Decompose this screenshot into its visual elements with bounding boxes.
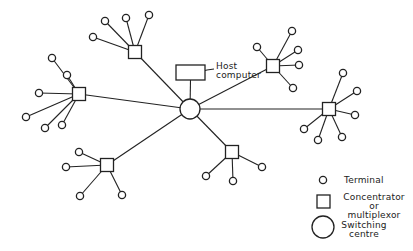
terminal-node bbox=[288, 27, 295, 34]
switching-centre-node bbox=[180, 99, 200, 119]
terminal-node bbox=[118, 191, 125, 198]
terminal-node bbox=[338, 133, 345, 140]
terminal-node bbox=[22, 113, 29, 120]
terminal-node bbox=[339, 69, 346, 76]
terminal-node bbox=[353, 87, 360, 94]
terminal-node bbox=[145, 11, 152, 18]
concentrator-bottom-center bbox=[226, 146, 239, 159]
legend-terminal-label: Terminal bbox=[344, 176, 384, 185]
legend-switching-icon bbox=[312, 216, 334, 238]
concentrator-right bbox=[323, 103, 336, 116]
terminal-node bbox=[48, 54, 55, 61]
concentrator-upper-right bbox=[267, 60, 280, 73]
terminal-node bbox=[314, 136, 321, 143]
concentrator-left bbox=[73, 88, 86, 101]
terminal-node bbox=[295, 61, 302, 68]
legend-terminal-icon bbox=[319, 176, 326, 183]
terminal-node bbox=[294, 46, 301, 53]
concentrator-top-left bbox=[129, 46, 142, 59]
legend-concentrator-icon bbox=[317, 195, 330, 208]
legend-switching-label: Switching centre bbox=[338, 221, 390, 239]
terminal-node bbox=[76, 192, 83, 199]
terminal-node bbox=[101, 17, 108, 24]
terminal-node bbox=[41, 124, 48, 131]
host-label-line2: computer bbox=[216, 71, 261, 80]
host-computer-label: Host computer bbox=[216, 62, 261, 80]
legend-concentrator-label: Concentrator or multiplexor bbox=[338, 193, 410, 220]
terminal-node bbox=[351, 111, 358, 118]
terminal-node bbox=[75, 148, 82, 155]
link-line bbox=[79, 94, 190, 109]
terminal-node bbox=[289, 84, 296, 91]
terminal-node bbox=[63, 71, 70, 78]
terminal-node bbox=[253, 43, 260, 50]
terminal-node bbox=[229, 177, 236, 184]
terminal-node bbox=[89, 33, 96, 40]
terminal-node bbox=[202, 172, 209, 179]
terminal-node bbox=[62, 163, 69, 170]
legend-switching-line2: centre bbox=[338, 230, 390, 239]
concentrator-bottom-left bbox=[101, 159, 114, 172]
terminal-node bbox=[58, 121, 65, 128]
link-line bbox=[107, 109, 190, 165]
terminal-node bbox=[35, 89, 42, 96]
terminal-link-line bbox=[26, 94, 79, 117]
host-computer-box bbox=[176, 65, 205, 80]
terminal-node bbox=[258, 163, 265, 170]
legend-concentrator-line3: multiplexor bbox=[338, 211, 410, 220]
terminal-node bbox=[122, 14, 129, 21]
terminal-node bbox=[300, 125, 307, 132]
